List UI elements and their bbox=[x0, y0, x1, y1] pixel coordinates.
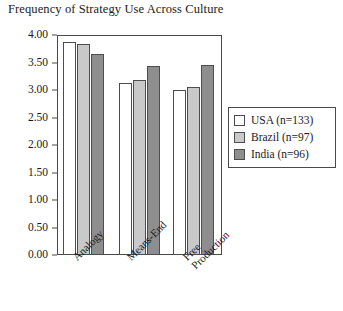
bar-chart: Frequency of Strategy Use Across Culture… bbox=[0, 0, 343, 311]
bar-group bbox=[173, 35, 216, 255]
bar bbox=[63, 42, 76, 255]
y-axis-tick-label: 3.50 bbox=[28, 57, 48, 69]
y-axis-tick-label: 2.00 bbox=[28, 139, 48, 151]
chart-title: Frequency of Strategy Use Across Culture bbox=[8, 2, 223, 17]
legend-item: USA (n=133) bbox=[234, 112, 330, 129]
legend-item-label: Brazil (n=97) bbox=[251, 132, 313, 144]
y-axis-tick-label: 0.50 bbox=[28, 222, 48, 234]
bar bbox=[91, 54, 104, 255]
bar bbox=[119, 83, 132, 255]
legend-swatch bbox=[234, 132, 245, 143]
y-axis: 4.003.503.002.502.001.501.000.500.00 bbox=[0, 35, 57, 255]
legend-item-label: India (n=96) bbox=[251, 149, 309, 161]
legend-swatch bbox=[234, 149, 245, 160]
y-axis-tick-label: 0.00 bbox=[28, 249, 48, 261]
y-axis-tick-label: 4.00 bbox=[28, 29, 48, 41]
bars-layer bbox=[57, 35, 222, 255]
legend-swatch bbox=[234, 115, 245, 126]
bar-group bbox=[63, 35, 106, 255]
y-axis-tick-label: 2.50 bbox=[28, 112, 48, 124]
bar bbox=[173, 90, 186, 255]
legend-item-label: USA (n=133) bbox=[251, 115, 313, 127]
bar bbox=[77, 44, 90, 255]
bar bbox=[133, 80, 146, 255]
y-axis-tick-label: 1.00 bbox=[28, 194, 48, 206]
y-axis-tick-label: 3.00 bbox=[28, 84, 48, 96]
legend-item: Brazil (n=97) bbox=[234, 129, 330, 146]
legend-item: India (n=96) bbox=[234, 146, 330, 163]
bar bbox=[187, 87, 200, 255]
y-axis-tick-label: 1.50 bbox=[28, 167, 48, 179]
x-axis-labels: AnalogyMeans-EndFreeProduction bbox=[57, 255, 222, 311]
chart-legend: USA (n=133)Brazil (n=97)India (n=96) bbox=[228, 107, 336, 168]
